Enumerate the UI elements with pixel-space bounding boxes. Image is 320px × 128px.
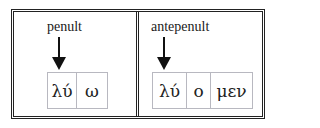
panel-divider [136, 11, 137, 117]
syllable-cell: ο [186, 73, 210, 108]
syllable-cell: λύ [48, 73, 76, 108]
syllable-cell: ω [76, 73, 107, 108]
panel-divider-double [138, 11, 139, 117]
syllable-boxes-antepenult: λύ ο μεν [152, 72, 253, 109]
down-arrow-icon [52, 37, 66, 71]
antepenult-label: antepenult [151, 19, 209, 35]
syllable-cell: μεν [210, 73, 252, 108]
down-arrow-icon [157, 37, 171, 71]
syllable-boxes-penult: λύ ω [47, 72, 108, 109]
syllable-cell: λύ [153, 73, 186, 108]
penult-label: penult [47, 19, 82, 35]
